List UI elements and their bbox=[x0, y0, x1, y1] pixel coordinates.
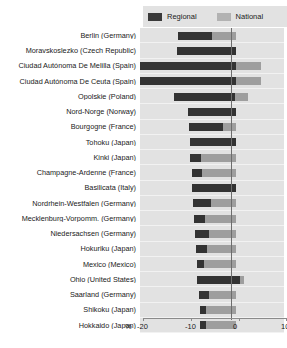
chart-row: Mecklenburg-Vorpomm. (Germany) bbox=[0, 211, 287, 226]
x-axis-tick-labels: -20-10010 bbox=[0, 322, 287, 336]
row-label: Nord-Norge (Norway) bbox=[0, 108, 140, 115]
x-axis-tick bbox=[191, 318, 192, 321]
row-plot-area bbox=[140, 257, 284, 272]
chart-row: Saarland (Germany) bbox=[0, 287, 287, 302]
row-plot-area bbox=[140, 211, 284, 226]
row-plot-area bbox=[140, 150, 284, 165]
chart-row: Mexico (Mexico) bbox=[0, 257, 287, 272]
chart-row: Niedersachsen (Germany) bbox=[0, 226, 287, 241]
chart-row: Champagne-Ardenne (France) bbox=[0, 165, 287, 180]
row-plot-area bbox=[140, 59, 284, 74]
bar-regional bbox=[189, 123, 223, 131]
bar-regional bbox=[196, 245, 208, 253]
bar-national bbox=[236, 62, 261, 70]
row-label: Berlin (Germany) bbox=[0, 32, 140, 39]
row-label: Moravskoslezko (Czech Republic) bbox=[0, 47, 140, 54]
row-plot-area bbox=[140, 165, 284, 180]
row-plot-area bbox=[140, 272, 284, 287]
x-axis-tick-label: 10 bbox=[281, 322, 287, 331]
row-label: Saarland (Germany) bbox=[0, 291, 140, 298]
row-label: Shikoku (Japan) bbox=[0, 306, 140, 313]
row-plot-area bbox=[140, 135, 284, 150]
legend-item-national: National bbox=[217, 12, 264, 21]
chart-row: Bourgogne (France) bbox=[0, 120, 287, 135]
chart-row: Ciudad Autónoma De Melilla (Spain) bbox=[0, 59, 287, 74]
bar-regional bbox=[192, 184, 236, 192]
row-plot-area bbox=[140, 287, 284, 302]
bar-regional bbox=[197, 276, 241, 284]
bar-regional bbox=[177, 47, 236, 55]
chart-row: Berlin (Germany) bbox=[0, 28, 287, 43]
chart-row: Ohio (United States) bbox=[0, 272, 287, 287]
row-label: Basilicata (Italy) bbox=[0, 184, 140, 191]
bar-regional bbox=[200, 306, 207, 314]
bar-regional bbox=[140, 62, 236, 70]
bar-regional bbox=[188, 108, 236, 116]
chart-row: Nordrhein-Westfalen (Germany) bbox=[0, 196, 287, 211]
chart-legend: Regional National bbox=[143, 6, 287, 27]
row-plot-area bbox=[140, 89, 284, 104]
row-plot-area bbox=[140, 181, 284, 196]
row-plot-area bbox=[140, 28, 284, 43]
bar-regional bbox=[140, 77, 236, 85]
row-label: Mecklenburg-Vorpomm. (Germany) bbox=[0, 215, 140, 222]
bar-national bbox=[223, 123, 236, 131]
x-axis-line bbox=[143, 318, 287, 319]
chart-row: Basilicata (Italy) bbox=[0, 181, 287, 196]
bar-regional bbox=[174, 93, 235, 101]
bar-regional bbox=[199, 291, 210, 299]
chart-row: Nord-Norge (Norway) bbox=[0, 104, 287, 119]
bar-national bbox=[211, 199, 236, 207]
chart-row: Shikoku (Japan) bbox=[0, 303, 287, 318]
row-label: Hokuriku (Japan) bbox=[0, 245, 140, 252]
zero-axis-line bbox=[231, 28, 232, 320]
bar-regional bbox=[193, 199, 211, 207]
bar-regional bbox=[192, 169, 203, 177]
legend-item-regional: Regional bbox=[148, 12, 197, 21]
row-plot-area bbox=[140, 104, 284, 119]
bar-regional bbox=[190, 154, 202, 162]
legend-swatch-national-icon bbox=[217, 13, 231, 21]
bar-regional bbox=[190, 138, 236, 146]
row-plot-area bbox=[140, 242, 284, 257]
bar-regional bbox=[197, 260, 205, 268]
row-label: Nordrhein-Westfalen (Germany) bbox=[0, 200, 140, 207]
x-axis-tick-label: 0 bbox=[233, 322, 237, 331]
bar-national bbox=[240, 276, 243, 284]
x-axis-tick bbox=[286, 318, 287, 321]
row-label: Tohoku (Japan) bbox=[0, 139, 140, 146]
bar-national bbox=[236, 77, 261, 85]
x-axis-tick-label: -10 bbox=[185, 322, 196, 331]
row-plot-area bbox=[140, 74, 284, 89]
x-axis-tick-label: -20 bbox=[137, 322, 148, 331]
chart-row: Opolskie (Poland) bbox=[0, 89, 287, 104]
legend-swatch-regional-icon bbox=[148, 13, 162, 21]
chart-row: Ciudad Autónoma De Ceuta (Spain) bbox=[0, 74, 287, 89]
row-label: Kinki (Japan) bbox=[0, 154, 140, 161]
x-axis-tick bbox=[143, 318, 144, 321]
row-plot-area bbox=[140, 226, 284, 241]
row-label: Champagne-Ardenne (France) bbox=[0, 169, 140, 176]
chart-row: Tohoku (Japan) bbox=[0, 135, 287, 150]
row-plot-area bbox=[140, 196, 284, 211]
row-plot-area bbox=[140, 43, 284, 58]
row-plot-area bbox=[140, 120, 284, 135]
legend-label-national: National bbox=[236, 12, 264, 21]
bar-regional bbox=[178, 32, 212, 40]
bar-regional bbox=[195, 230, 209, 238]
legend-label-regional: Regional bbox=[167, 12, 197, 21]
row-label: Opolskie (Poland) bbox=[0, 93, 140, 100]
row-label: Mexico (Mexico) bbox=[0, 261, 140, 268]
row-label: Ciudad Autónoma De Melilla (Spain) bbox=[0, 62, 140, 69]
chart-row: Moravskoslezko (Czech Republic) bbox=[0, 43, 287, 58]
row-label: Ohio (United States) bbox=[0, 276, 140, 283]
chart-rows: Berlin (Germany)Moravskoslezko (Czech Re… bbox=[0, 28, 287, 318]
chart-row: Hokuriku (Japan) bbox=[0, 242, 287, 257]
row-plot-area bbox=[140, 303, 284, 318]
row-label: Ciudad Autónoma De Ceuta (Spain) bbox=[0, 78, 140, 85]
bar-national bbox=[235, 93, 249, 101]
chart-row: Kinki (Japan) bbox=[0, 150, 287, 165]
row-label: Bourgogne (France) bbox=[0, 123, 140, 130]
bar-national bbox=[211, 32, 236, 40]
row-label: Niedersachsen (Germany) bbox=[0, 230, 140, 237]
